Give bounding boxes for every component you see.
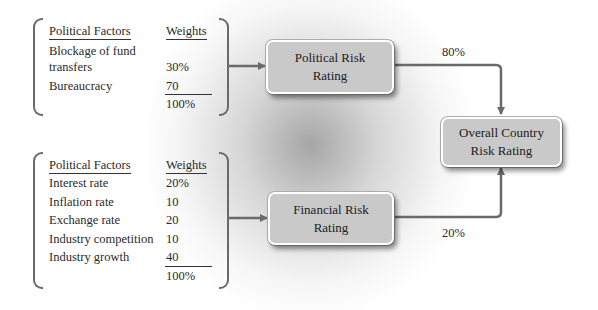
- financial-risk-rating-box: Financial Risk Rating: [268, 192, 394, 245]
- box-label: Overall Country: [459, 124, 544, 142]
- box-label: Financial Risk: [293, 201, 368, 219]
- box-label: Political Risk: [295, 49, 365, 67]
- box-label: Risk Rating: [459, 142, 544, 160]
- arrow-political-to-overall: [395, 65, 501, 114]
- political-share-label: 80%: [442, 45, 465, 60]
- box-label: Rating: [295, 67, 365, 85]
- financial-share-label: 20%: [442, 226, 465, 241]
- overall-country-risk-rating-box: Overall Country Risk Rating: [441, 117, 562, 167]
- arrow-financial-to-overall: [394, 168, 501, 217]
- box-label: Rating: [293, 219, 368, 237]
- political-risk-rating-box: Political Risk Rating: [266, 40, 394, 94]
